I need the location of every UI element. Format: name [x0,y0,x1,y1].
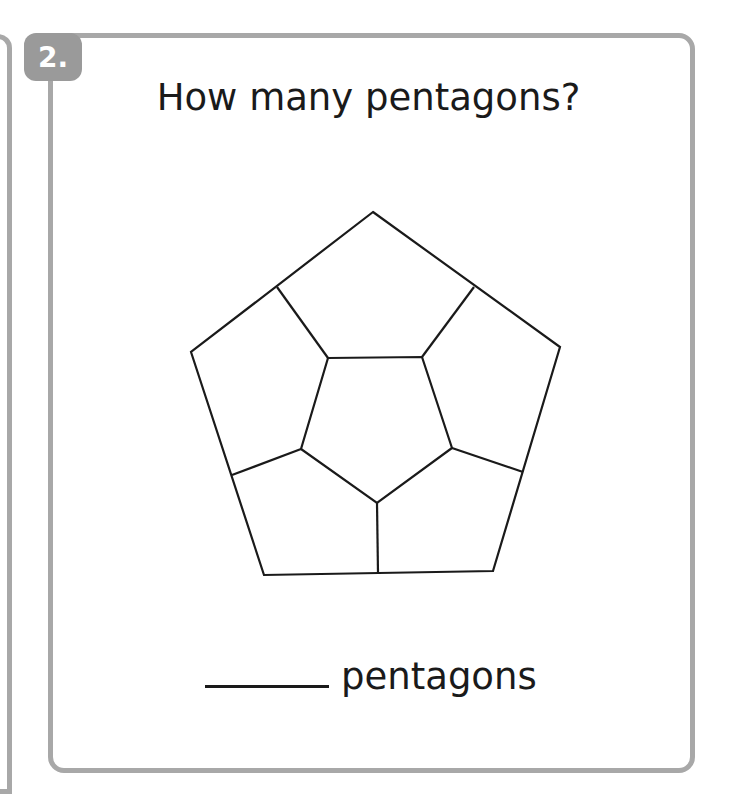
outer-pentagon [191,212,560,575]
divider-line [452,448,523,472]
answer-row: pentagons [205,648,537,698]
divider-line [377,503,378,573]
inner-pentagon [301,357,452,503]
answer-unit: pentagons [341,655,537,698]
divider-line [232,449,301,475]
answer-blank[interactable] [205,685,329,688]
divider-line [277,287,328,358]
divider-line [422,287,474,357]
